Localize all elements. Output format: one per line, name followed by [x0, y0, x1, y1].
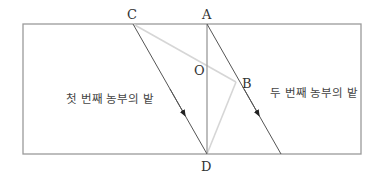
first-farmer-field-label: 첫 번째 농부의 밭	[66, 92, 154, 106]
arrow-parallel-icon	[244, 89, 258, 114]
point-label-o: O	[194, 63, 205, 78]
point-label-d: D	[201, 159, 211, 174]
point-label-b: B	[242, 76, 252, 91]
point-label-a: A	[201, 7, 212, 22]
segment-bd	[207, 82, 236, 154]
segment-cb	[133, 24, 236, 82]
arrow-cd-icon	[170, 89, 184, 114]
point-label-c: C	[127, 7, 137, 22]
second-farmer-field-label: 두 번째 농부의 밭	[270, 86, 358, 100]
land-division-diagram: C A O B D 첫 번째 농부의 밭 두 번째 농부의 밭	[0, 0, 379, 180]
